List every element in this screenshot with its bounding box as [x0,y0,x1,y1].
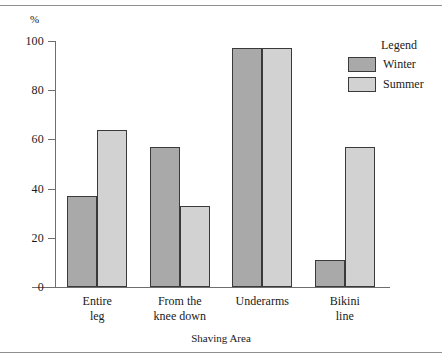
x-axis-title: Shaving Area [0,332,442,344]
legend-item-group: WinterSummer [348,57,436,92]
x-axis-category-label: Entireleg [56,294,139,324]
y-axis-tick [48,139,56,140]
legend-item-label: Summer [383,78,424,91]
x-axis-category-label: Bikiniline [304,294,387,324]
bar-winter [315,260,345,287]
category-label-line-1: Underarms [236,294,289,308]
legend-item-label: Winter [383,58,416,71]
y-axis-tick-label: 100 [4,35,44,47]
y-axis-tick-label: 0 [4,281,44,293]
legend-item[interactable]: Winter [348,57,436,72]
y-axis-tick [48,287,56,288]
bar-group [221,41,304,287]
y-axis-tick-label: 60 [4,133,44,145]
category-label-line-1: Bikini [330,294,360,308]
bar-group [139,41,222,287]
bar-summer [345,147,375,287]
legend: Legend WinterSummer [348,38,436,97]
x-axis-category-label: Underarms [221,294,304,309]
y-axis-tick-label: 80 [4,84,44,96]
legend-item[interactable]: Summer [348,77,436,92]
bar-group [56,41,139,287]
y-axis-tick-label: 20 [4,232,44,244]
legend-title: Legend [348,38,436,52]
y-axis-tick [48,238,56,239]
category-label-line-1: From the [158,294,202,308]
legend-swatch-icon [348,77,376,92]
bottom-divider-rule [0,352,442,353]
bar-winter [67,196,97,287]
bar-summer [180,206,210,287]
bar-chart-figure: % 020406080100 EntirelegFrom theknee dow… [0,0,442,360]
y-axis-unit-label: % [30,14,39,25]
legend-swatch-icon [348,57,376,72]
bar-summer [97,130,127,287]
category-label-line-1: Entire [83,294,112,308]
y-axis-tick [48,189,56,190]
x-axis-line [32,287,390,288]
category-label-line-2: knee down [139,309,222,324]
y-axis-tick-label: 40 [4,183,44,195]
bar-summer [262,48,292,287]
bar-winter [150,147,180,287]
x-axis-category-label: From theknee down [139,294,222,324]
top-divider-rule [0,5,442,6]
plot-area [56,41,386,287]
y-axis-tick [48,41,56,42]
y-axis-tick [48,90,56,91]
category-label-line-2: line [304,309,387,324]
bar-winter [232,48,262,287]
category-label-line-2: leg [56,309,139,324]
